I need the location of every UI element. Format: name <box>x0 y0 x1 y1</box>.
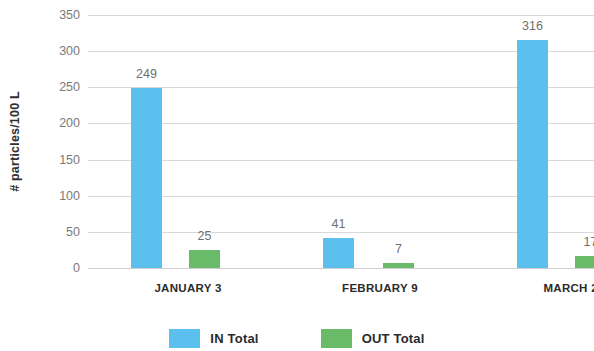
y-axis-tick-labels: 350300250200150100500 <box>28 0 80 351</box>
x-axis-category-labels: JANUARY 3FEBRUARY 9MARCH 24 <box>88 282 594 300</box>
legend-swatch-icon-out-total <box>321 329 352 348</box>
bar-out-2[interactable] <box>575 256 594 268</box>
chart-legend: IN TotalOUT Total <box>0 326 594 350</box>
y-axis-tick-350: 350 <box>28 8 80 22</box>
legend-item-out-total[interactable]: OUT Total <box>321 329 425 348</box>
y-axis-title: # particles/100 L <box>4 15 26 268</box>
bar-value-label-out-0: 25 <box>180 229 230 243</box>
plot-area: 2494131625717 <box>88 15 594 268</box>
bar-out-0[interactable] <box>189 250 220 268</box>
bar-value-label-in-1: 41 <box>314 217 364 231</box>
bar-value-label-out-2: 17 <box>566 235 594 249</box>
y-axis-tick-250: 250 <box>28 80 80 94</box>
legend-swatch-icon-in-total <box>169 329 200 348</box>
bar-value-label-in-0: 249 <box>122 67 172 81</box>
bar-value-label-in-2: 316 <box>508 19 558 33</box>
legend-label-in-total: IN Total <box>210 331 258 346</box>
x-axis-label-0: JANUARY 3 <box>118 282 258 294</box>
x-axis-label-2: MARCH 24 <box>504 282 594 294</box>
legend-item-in-total[interactable]: IN Total <box>169 329 258 348</box>
y-axis-tick-50: 50 <box>28 225 80 239</box>
bar-out-1[interactable] <box>383 263 414 268</box>
y-axis-tick-100: 100 <box>28 189 80 203</box>
bar-in-2[interactable] <box>517 40 548 268</box>
y-axis-tick-150: 150 <box>28 153 80 167</box>
y-axis-tick-300: 300 <box>28 44 80 58</box>
bar-chart: # particles/100 L 350300250200150100500 … <box>0 0 594 351</box>
bar-value-label-out-1: 7 <box>374 242 424 256</box>
y-axis-tick-0: 0 <box>28 261 80 275</box>
y-axis-tick-200: 200 <box>28 116 80 130</box>
gridline-350 <box>88 15 594 16</box>
legend-label-out-total: OUT Total <box>362 331 425 346</box>
bar-in-0[interactable] <box>131 88 162 268</box>
bar-in-1[interactable] <box>323 238 354 268</box>
x-axis-label-1: FEBRUARY 9 <box>310 282 450 294</box>
axis-baseline <box>88 268 594 269</box>
